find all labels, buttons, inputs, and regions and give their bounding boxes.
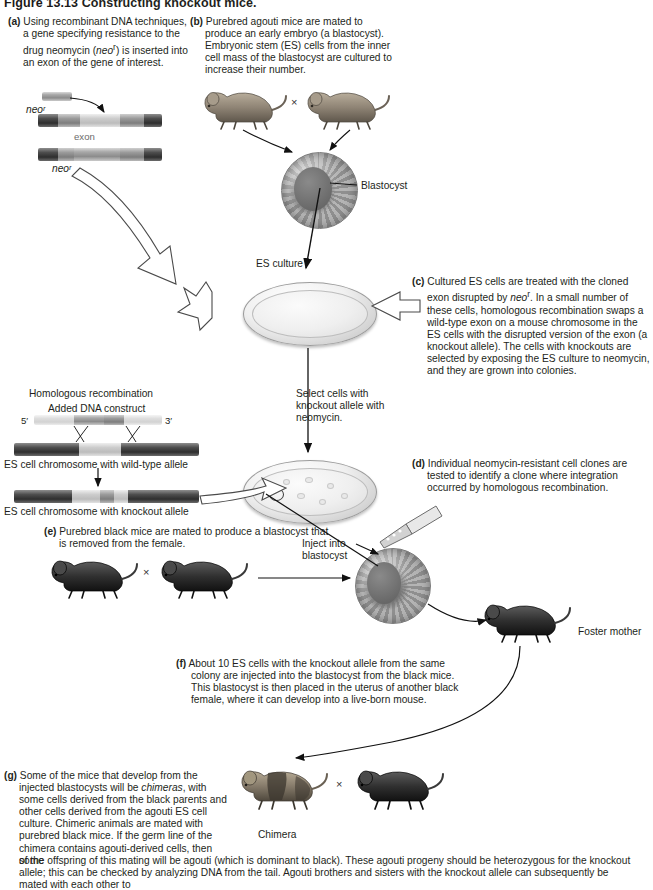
colony-dish-inner [252, 468, 368, 516]
homologous-recombination-label: Homologous recombination [29, 388, 153, 400]
blastocyst-label: Blastocyst [361, 180, 407, 192]
panel-c-label: (c) [412, 276, 424, 287]
es-culture-label: ES culture [256, 258, 303, 270]
agouti-mouse-parent-1 [202, 84, 288, 130]
figure-title-text: Constructing knockout mice. [82, 0, 257, 10]
foster-mother-label: Foster mother [578, 626, 641, 638]
agouti-mouse-parent-2 [305, 84, 391, 130]
chimera-label: Chimera [258, 829, 297, 841]
colony-spot [327, 483, 334, 489]
black-mouse-parent-2 [158, 552, 250, 600]
colony-spot [283, 479, 290, 485]
panel-b-text: (b) Purebred agouti mice are mated to pr… [190, 16, 401, 76]
chimera-mouse [238, 762, 330, 812]
black-mouse-parent-1 [48, 552, 140, 600]
colony-spot [297, 493, 305, 499]
panel-d-body: Individual neomycin-resistant cell clone… [427, 458, 627, 493]
panel-c-body: Cultured ES cells are treated with the c… [427, 276, 650, 376]
three-prime-label: 3′ [165, 415, 172, 427]
es-chromosome-knockout-bar [14, 490, 199, 503]
panel-a-body: Using recombinant DNA techniques, a gene… [23, 16, 188, 68]
inject-into-blastocyst-label: Inject into blastocyst [302, 538, 362, 562]
panel-d-label: (d) [412, 458, 425, 469]
es-culture-dish [243, 282, 377, 346]
panel-f-text: (f) About 10 ES cells with the knockout … [176, 658, 471, 706]
inner-cell-mass [294, 167, 332, 211]
panel-b-label: (b) [190, 16, 203, 27]
target-gene-bar [38, 114, 162, 127]
five-prime-label: 5′ [21, 415, 28, 427]
es-chromosome-wildtype-bar [14, 443, 199, 456]
panel-c-text: (c) Cultured ES cells are treated with t… [412, 276, 653, 377]
figure-title: Figure 13.13 Constructing knockout mice. [4, 0, 257, 10]
neo-label-inserted: neoʳ [52, 163, 71, 175]
added-construct-bar [34, 415, 162, 425]
colony-spot [341, 493, 348, 499]
es-wildtype-label: ES cell chromosome with wild-type allele [4, 459, 188, 471]
colony-dish [243, 460, 377, 524]
figure-number: Figure 13.13 [4, 0, 78, 10]
black-mouse-mate [354, 762, 446, 812]
panel-g-text-full: of the offspring of this mating will be … [19, 855, 639, 890]
panel-a-text: (a) Using recombinant DNA techniques, a … [8, 16, 193, 69]
colony-spot [305, 477, 313, 483]
panel-e-text: (e) Purebred black mice are mated to pro… [44, 526, 331, 550]
panel-d-text: (d) Individual neomycin-resistant cell c… [412, 458, 645, 494]
select-cells-text: Select cells with knockout allele with n… [296, 388, 384, 423]
panel-g-body-full: of the offspring of this mating will be … [19, 855, 630, 890]
panel-g-label: (g) [4, 770, 17, 781]
cross-symbol-b: × [291, 96, 297, 108]
colony-spot [319, 499, 326, 505]
panel-b-body: Purebred agouti mice are mated to produc… [205, 16, 392, 75]
select-cells-label: Select cells with knockout allele with n… [296, 388, 406, 424]
cross-symbol-g: × [336, 778, 342, 790]
inject-label-text: Inject into blastocyst [302, 538, 347, 561]
disrupted-gene-bar [38, 148, 162, 161]
panel-f-label: (f) [176, 658, 186, 669]
cross-symbol-e: × [143, 566, 149, 578]
exon-label: exon [74, 131, 95, 143]
panel-g-text-column: (g) Some of the mice that develop from t… [4, 770, 231, 867]
blastocyst-agouti [281, 152, 358, 229]
panel-a-label: (a) [8, 16, 20, 27]
selected-colony-marker[interactable] [269, 488, 284, 501]
es-culture-dish-inner [252, 290, 368, 338]
panel-g-body-col: Some of the mice that develop from the i… [19, 770, 227, 866]
neo-cassette-bar [42, 92, 72, 101]
panel-e-label: (e) [44, 526, 56, 537]
foster-mother-mouse [481, 596, 573, 644]
es-knockout-label: ES cell chromosome with knockout allele [4, 506, 189, 518]
inner-cell-mass-recipient [367, 562, 401, 604]
panel-f-body: About 10 ES cells with the knockout alle… [188, 658, 458, 705]
blastocyst-black-recipient [355, 548, 431, 624]
panel-e-body: Purebred black mice are mated to produce… [59, 526, 328, 549]
added-dna-construct-label: Added DNA construct [48, 403, 145, 415]
